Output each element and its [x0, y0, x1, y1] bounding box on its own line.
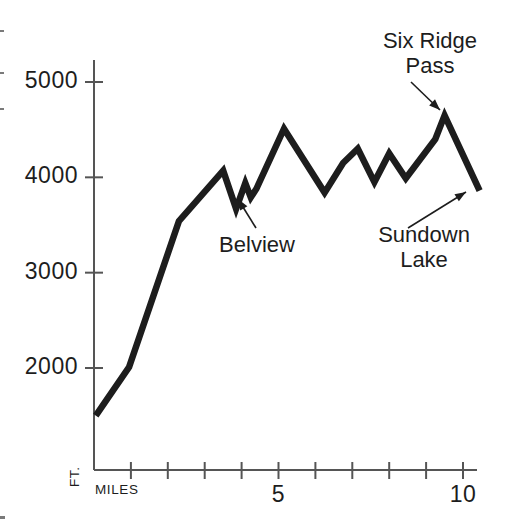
y-tick-label-3000: 3000 [0, 258, 78, 285]
page-edge-mark-upper [0, 72, 4, 74]
annotation-arrow-head [454, 192, 466, 201]
elevation-profile-figure: 2000 3000 4000 5000 5 10 FT. MILES Six R… [0, 0, 509, 524]
page-edge-mark-top [0, 30, 4, 32]
y-tick-label-5000: 5000 [0, 67, 78, 94]
annotation-line: Pass [340, 53, 509, 78]
annotation-line: Six Ridge [340, 28, 509, 53]
y-tick-label-4000: 4000 [0, 162, 78, 189]
x-tick-label-5: 5 [239, 481, 319, 508]
annotation-line: Belview [167, 232, 347, 257]
y-axis-title: FT. [67, 466, 82, 487]
page-edge-mark-bottom [0, 516, 5, 519]
x-tick-label-10: 10 [423, 481, 503, 508]
annotation-line: Sundown [334, 222, 509, 247]
annotation-six-ridge-pass: Six RidgePass [340, 28, 509, 78]
annotation-sundown-lake: SundownLake [334, 222, 509, 272]
y-tick-label-2000: 2000 [0, 353, 78, 380]
annotation-line: Lake [334, 247, 509, 272]
x-axis-title: MILES [95, 482, 139, 497]
page-edge-mark-mid [0, 108, 4, 110]
annotation-belview: Belview [167, 232, 347, 257]
